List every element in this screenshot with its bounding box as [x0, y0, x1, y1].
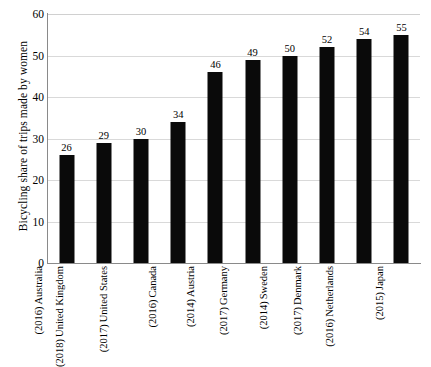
bar[interactable]: [282, 56, 297, 264]
bar-slot: 46: [197, 14, 234, 263]
category-year: (2016): [324, 319, 336, 347]
y-axis-tick-label: 30: [4, 133, 44, 145]
plot-area: 26293034464950525455: [48, 14, 420, 263]
y-axis-tick-label: 10: [4, 216, 44, 228]
category-year: (2017): [292, 307, 304, 335]
bar[interactable]: [208, 72, 223, 263]
bar-slot: 34: [160, 14, 197, 263]
bar-slot: 29: [85, 14, 122, 263]
category-year: (2015): [374, 292, 386, 320]
bar-slot: 26: [48, 14, 85, 263]
bar[interactable]: [319, 47, 334, 263]
bar-value-label: 30: [136, 126, 147, 137]
bar-value-label: 49: [247, 47, 258, 58]
bar-value-label: 52: [322, 34, 333, 45]
category-country: Australia: [32, 266, 44, 305]
bar-slot: 54: [346, 14, 383, 263]
category-year: (2016): [147, 300, 159, 328]
category-year: (2018): [53, 339, 65, 367]
bar-value-label: 54: [359, 26, 370, 37]
bar-slot: 55: [383, 14, 420, 263]
bar[interactable]: [357, 39, 372, 263]
bar-value-label: 34: [173, 109, 184, 120]
y-axis-tick-label: 40: [4, 91, 44, 103]
category-country: Germany: [218, 266, 230, 305]
category-country: United States: [98, 266, 110, 322]
bar-value-label: 50: [285, 43, 296, 54]
bar-slot: 52: [308, 14, 345, 263]
category-country: Denmark: [292, 266, 304, 305]
y-axis-tick-label: 20: [4, 174, 44, 186]
bar[interactable]: [133, 139, 148, 264]
bar-value-label: 26: [61, 142, 72, 153]
category-country: United Kingdom: [53, 266, 65, 337]
bar[interactable]: [171, 122, 186, 263]
category-year: (2014): [258, 301, 270, 329]
category-year: (2016): [32, 307, 44, 335]
category-country: Austria: [185, 266, 197, 297]
y-axis-tick-label: 60: [4, 8, 44, 20]
bar-slot: 50: [271, 14, 308, 263]
bar[interactable]: [59, 155, 74, 263]
category-country: Japan: [374, 266, 386, 290]
bar-slot: 49: [234, 14, 271, 263]
category-country: Canada: [147, 266, 159, 298]
bar-slot: 30: [122, 14, 159, 263]
x-axis-category-labels: Australia(2016)United Kingdom(2018)Unite…: [48, 264, 420, 355]
bar[interactable]: [394, 35, 409, 263]
y-axis-tick-label: 50: [4, 50, 44, 62]
category-country: Netherlands: [324, 266, 336, 317]
bar[interactable]: [245, 60, 260, 263]
category-year: (2017): [98, 324, 110, 352]
bar[interactable]: [96, 143, 111, 263]
category-year: (2017): [218, 307, 230, 335]
bar-value-label: 29: [99, 130, 110, 141]
bar-value-label: 55: [396, 22, 407, 33]
category-year: (2014): [185, 299, 197, 327]
category-label: Japan(2015): [383, 264, 420, 355]
bar-value-label: 46: [210, 59, 221, 70]
category-country: Sweden: [258, 266, 270, 299]
